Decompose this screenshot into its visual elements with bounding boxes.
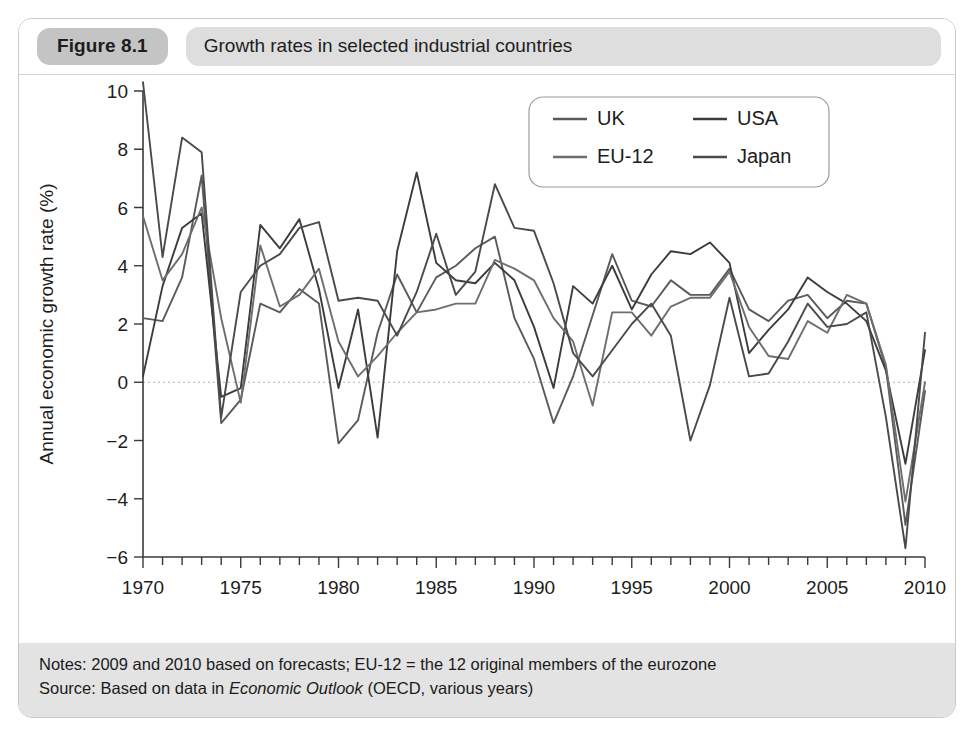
svg-text:−6: −6: [106, 547, 128, 568]
chart-legend[interactable]: UKUSAEU-12Japan: [529, 97, 829, 187]
figure-header: Figure 8.1 Growth rates in selected indu…: [19, 19, 955, 75]
svg-text:1975: 1975: [220, 577, 262, 598]
svg-text:0: 0: [117, 372, 128, 393]
source-prefix: Source: Based on data in: [39, 679, 229, 697]
svg-text:1980: 1980: [317, 577, 359, 598]
svg-text:2: 2: [117, 314, 128, 335]
svg-text:−4: −4: [106, 489, 128, 510]
source-line: Source: Based on data in Economic Outloo…: [39, 677, 935, 701]
source-title: Economic Outlook: [229, 679, 363, 697]
svg-text:10: 10: [107, 81, 128, 102]
svg-text:4: 4: [117, 256, 128, 277]
legend-label: Japan: [737, 145, 792, 167]
growth-rate-line-chart: Annual economic growth rate (%) −6−4−202…: [19, 75, 955, 645]
svg-text:Annual economic growth rate (%: Annual economic growth rate (%): [36, 184, 57, 465]
chart-plot-area: Annual economic growth rate (%) −6−4−202…: [19, 75, 955, 645]
legend-label: USA: [737, 107, 779, 129]
svg-text:1995: 1995: [611, 577, 653, 598]
x-axis-ticks: 197019751980198519901995200020052010: [122, 557, 946, 598]
svg-text:1990: 1990: [513, 577, 555, 598]
svg-text:2010: 2010: [904, 577, 946, 598]
legend-label: EU-12: [597, 145, 654, 167]
figure-notes-panel: Notes: 2009 and 2010 based on forecasts;…: [19, 643, 955, 717]
svg-text:8: 8: [117, 139, 128, 160]
y-axis-ticks: −6−4−20246810: [106, 81, 143, 568]
svg-text:2000: 2000: [708, 577, 750, 598]
legend-label: UK: [597, 107, 625, 129]
figure-page: Figure 8.1 Growth rates in selected indu…: [0, 0, 974, 752]
legend-box: [529, 97, 829, 187]
figure-title: Growth rates in selected industrial coun…: [186, 27, 941, 66]
svg-text:1970: 1970: [122, 577, 164, 598]
svg-text:−2: −2: [106, 431, 128, 452]
y-axis-title: Annual economic growth rate (%): [36, 184, 57, 465]
svg-text:1985: 1985: [415, 577, 457, 598]
notes-line: Notes: 2009 and 2010 based on forecasts;…: [39, 653, 935, 677]
svg-text:2005: 2005: [806, 577, 848, 598]
svg-text:6: 6: [117, 198, 128, 219]
source-suffix: (OECD, various years): [363, 679, 534, 697]
series-line-eu-12: [143, 208, 925, 502]
series-line-usa: [143, 173, 925, 464]
figure-frame: Figure 8.1 Growth rates in selected indu…: [18, 18, 956, 718]
figure-number-badge: Figure 8.1: [37, 28, 168, 65]
